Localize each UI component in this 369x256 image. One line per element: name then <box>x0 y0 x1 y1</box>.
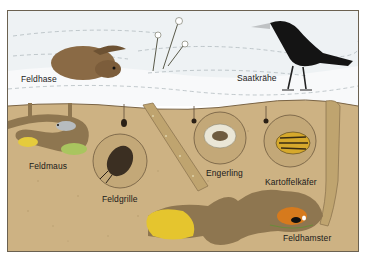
potato-beetle-icon <box>276 132 310 154</box>
label-feldgrille: Feldgrille <box>102 194 138 204</box>
label-feldhase: Feldhase <box>21 74 57 84</box>
hamster-icon <box>277 207 307 225</box>
mouse-nest-yellow <box>18 137 38 147</box>
label-kartoffelkaefer: Kartoffelkäfer <box>265 177 317 187</box>
label-feldmaus: Feldmaus <box>29 161 67 171</box>
mouse-icon <box>56 121 76 131</box>
mouse-nest-green <box>61 143 87 155</box>
label-saatkraehe: Saatkrähe <box>237 73 277 83</box>
field-cross-section <box>8 11 358 251</box>
cricket-small-icon <box>121 119 127 127</box>
label-feldhamster: Feldhamster <box>283 233 331 243</box>
hare-icon <box>51 45 126 80</box>
label-engerling: Engerling <box>206 168 243 178</box>
grub-icon <box>204 124 236 148</box>
illustration-frame: Feldhase Saatkrähe Feldmaus Feldgrille E… <box>7 10 359 252</box>
